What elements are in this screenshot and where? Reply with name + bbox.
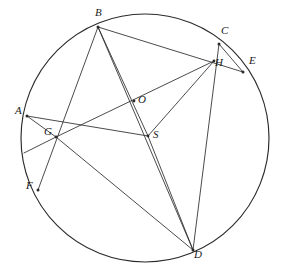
segment-g-d [56,137,193,250]
point-label-c: C [221,25,228,36]
point-label-b: B [95,7,102,18]
segment-b-s [98,27,148,136]
point-label-e: E [249,55,256,66]
segment-g-arc_lower_left [24,137,56,153]
vertex-dot-g [55,136,58,139]
segment-b-d [98,27,193,250]
point-label-d: D [194,249,202,260]
vertex-dot-s [147,135,150,138]
point-label-s: S [153,129,159,140]
segment-s-h [148,61,214,136]
point-label-o: O [138,94,146,105]
vertex-dot-c [218,43,221,46]
vertex-dot-o [133,100,136,103]
vertex-dot-a [26,115,29,118]
segment-b-f [38,27,98,190]
chord-segments-group [24,27,243,250]
segment-c-d [193,44,219,250]
geometry-canvas [0,0,281,278]
point-label-a: A [15,105,22,116]
vertex-dot-b [97,26,100,29]
segment-g-h [56,61,214,137]
geometry-figure: ABCDEFGHOS [0,0,281,278]
segment-s-d [148,136,193,250]
point-label-g: G [44,126,52,137]
point-label-f: F [26,180,33,191]
vertex-dot-f [37,189,40,192]
vertex-dot-e [242,71,245,74]
point-label-h: H [215,57,223,68]
